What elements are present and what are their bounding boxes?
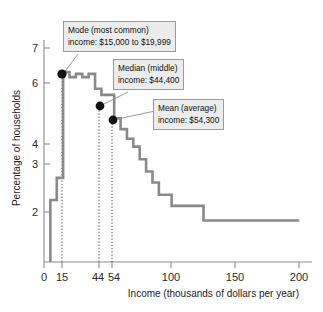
marker-dot-mean (109, 116, 118, 125)
y-tick-label-3: 3 (32, 158, 38, 170)
callout-mean-line2: income: $54,300 (158, 114, 219, 126)
leader-line-mean (113, 111, 155, 120)
y-axis-ticks (44, 48, 50, 212)
x-axis-title: Income (thousands of dollars per year) (128, 288, 299, 299)
y-tick-label-4: 4 (32, 138, 38, 150)
x-tick-label-150: 150 (226, 271, 244, 283)
callout-mean-line1: Mean (average) (158, 102, 219, 114)
callout-median-line2: income: $44,400 (118, 74, 179, 86)
callout-mode-line1: Mode (most common) (68, 24, 171, 36)
guide-lines (62, 75, 112, 262)
callout-mode: Mode (most common) income: $15,000 to $1… (63, 21, 176, 52)
marker-dot-median (96, 102, 105, 111)
x-tick-label-15: 15 (56, 271, 68, 283)
x-tick-label-54: 54 (108, 271, 120, 283)
y-tick-label-6: 6 (32, 77, 38, 89)
callout-median-line1: Median (middle) (118, 62, 179, 74)
y-tick-label-7: 7 (32, 42, 38, 54)
callout-median: Median (middle) income: $44,400 (113, 59, 184, 90)
y-tick-label-2: 2 (32, 206, 38, 218)
callout-mode-line2: income: $15,000 to $19,999 (68, 36, 171, 48)
income-distribution-chart: 7 6 4 3 2 0 15 44 54 100 150 200 Income … (0, 0, 323, 312)
x-tick-label-100: 100 (162, 271, 180, 283)
callout-mean: Mean (average) income: $54,300 (153, 99, 224, 130)
x-tick-label-44: 44 (92, 271, 104, 283)
x-tick-label-200: 200 (290, 271, 308, 283)
x-axis-ticks (44, 262, 299, 268)
marker-dot-mode (57, 69, 66, 78)
y-axis-title: Percentage of households (11, 90, 22, 206)
x-tick-label-0: 0 (41, 271, 47, 283)
